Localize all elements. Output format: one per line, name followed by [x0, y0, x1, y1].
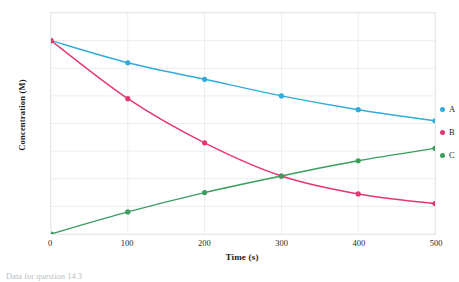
legend-item-C[interactable]: C: [440, 150, 455, 160]
legend-label: A: [449, 104, 455, 114]
chart-figure: Concentration (M) 00.010.020.030.040.050…: [0, 0, 459, 282]
data-point-B-200: [202, 140, 207, 145]
x-tick-label: 0: [30, 238, 70, 248]
x-tick-label: 300: [262, 238, 302, 248]
legend-item-B[interactable]: B: [440, 127, 455, 137]
figure-caption: Data for question 14.3: [6, 271, 82, 282]
legend-marker-icon: [440, 153, 445, 158]
data-point-C-200: [202, 190, 207, 195]
legend-item-A[interactable]: A: [440, 104, 455, 114]
data-point-A-200: [202, 77, 207, 82]
x-tick-label: 400: [339, 238, 379, 248]
x-axis-title: Time (s): [48, 252, 436, 262]
data-point-C-100: [125, 209, 130, 214]
plot-area: [50, 12, 436, 235]
legend-label: C: [449, 150, 455, 160]
legend-marker-icon: [440, 130, 445, 135]
y-axis-title: Concentration (M): [17, 35, 27, 195]
data-point-B-500: [432, 201, 435, 206]
data-point-A-300: [279, 93, 284, 98]
data-point-A-500: [432, 118, 435, 123]
series-line-A: [51, 41, 435, 121]
x-tick-label: 500: [416, 238, 456, 248]
data-point-C-400: [356, 158, 361, 163]
series-line-B: [51, 41, 435, 204]
x-tick-label: 200: [184, 238, 224, 248]
x-tick-label: 100: [107, 238, 147, 248]
data-point-C-0: [51, 231, 54, 234]
data-point-B-100: [125, 96, 130, 101]
data-point-C-300: [279, 173, 284, 178]
data-point-C-500: [432, 146, 435, 151]
chart-legend: ABC: [440, 104, 455, 160]
legend-label: B: [449, 127, 455, 137]
legend-marker-icon: [440, 107, 445, 112]
data-point-A-100: [125, 60, 130, 65]
data-series-layer: [51, 13, 435, 234]
data-point-B-400: [356, 191, 361, 196]
data-point-A-400: [356, 107, 361, 112]
